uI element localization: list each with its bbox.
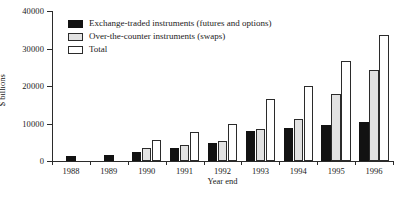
x-tick	[204, 161, 205, 165]
bar-exch-1992	[208, 143, 218, 161]
bar-total-1992	[228, 124, 238, 162]
bar-otc-1994	[294, 119, 304, 161]
x-tick-label: 1991	[176, 167, 193, 176]
y-axis-title: $ billions	[0, 74, 6, 106]
x-tick-label: 1989	[100, 167, 117, 176]
x-tick-label: 1996	[366, 167, 383, 176]
legend-swatch-exch	[68, 20, 83, 28]
x-tick-label: 1993	[252, 167, 269, 176]
chart-legend: Exchange-traded instruments (futures and…	[68, 17, 271, 56]
x-tick-label: 1994	[290, 167, 307, 176]
x-tick	[90, 161, 91, 165]
bar-total-1995	[341, 61, 351, 161]
bar-exch-1991	[170, 148, 180, 162]
y-tick-label: 40000	[22, 7, 44, 16]
x-tick	[355, 161, 356, 165]
y-tick	[47, 124, 52, 125]
y-tick	[47, 86, 52, 87]
bar-exch-1990	[132, 152, 142, 161]
x-tick	[241, 161, 242, 165]
legend-label-otc: Over-the-counter instruments (swaps)	[89, 32, 225, 41]
legend-label-total: Total	[89, 45, 107, 54]
bar-otc-1993	[256, 129, 266, 161]
bar-exch-1988	[66, 156, 76, 161]
y-tick	[47, 11, 52, 12]
x-tick	[317, 161, 318, 165]
bar-exch-1989	[104, 155, 114, 161]
bar-otc-1995	[331, 94, 341, 161]
bar-otc-1996	[369, 70, 379, 161]
y-tick-label: 20000	[22, 82, 44, 91]
legend-item-otc: Over-the-counter instruments (swaps)	[68, 30, 271, 43]
legend-swatch-otc	[68, 33, 83, 41]
bar-total-1991	[190, 132, 200, 161]
derivatives-bar-chart: 010000200003000040000 198819891990199119…	[0, 0, 403, 202]
x-tick	[166, 161, 167, 165]
x-axis-line	[52, 161, 393, 162]
bar-total-1994	[304, 86, 314, 161]
x-tick	[279, 161, 280, 165]
x-tick	[393, 161, 394, 165]
bar-exch-1996	[359, 122, 369, 161]
bar-otc-1990	[142, 148, 152, 161]
bar-otc-1991	[180, 145, 190, 162]
y-tick-label: 0	[40, 157, 44, 166]
y-tick-label: 30000	[22, 44, 44, 53]
x-tick-label: 1995	[328, 167, 345, 176]
bar-total-1993	[266, 99, 276, 161]
bar-total-1996	[379, 35, 389, 161]
legend-label-exch: Exchange-traded instruments (futures and…	[89, 19, 271, 28]
legend-item-exch: Exchange-traded instruments (futures and…	[68, 17, 271, 30]
bar-otc-1992	[218, 141, 228, 161]
y-tick-label: 10000	[22, 119, 44, 128]
bar-exch-1993	[246, 131, 256, 161]
bar-total-1990	[152, 140, 162, 161]
bar-exch-1994	[284, 128, 294, 161]
x-tick-label: 1992	[214, 167, 231, 176]
y-axis-line	[52, 11, 53, 161]
x-tick	[52, 161, 53, 165]
legend-swatch-total	[68, 46, 83, 54]
y-tick	[47, 49, 52, 50]
bar-exch-1995	[321, 125, 331, 161]
x-tick-label: 1990	[138, 167, 155, 176]
x-axis-title: Year end	[52, 177, 393, 186]
legend-item-total: Total	[68, 43, 271, 56]
x-tick	[128, 161, 129, 165]
x-tick-label: 1988	[62, 167, 79, 176]
